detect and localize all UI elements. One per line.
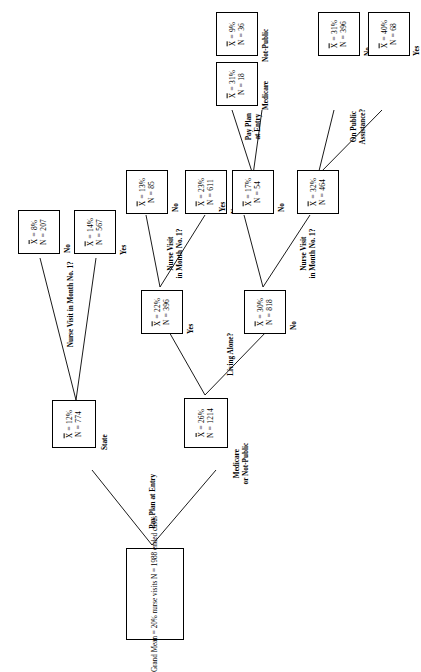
- mc-mean: = 31%: [228, 70, 237, 91]
- alone-yes-n: = 396: [162, 299, 171, 317]
- state-yes-mean: = 14%: [86, 218, 95, 239]
- node-label-state: State: [101, 434, 109, 450]
- split-label-pay-plan-entry-2: Pay Plan at Entry: [245, 101, 262, 153]
- ayy-mean: = 23%: [197, 178, 206, 199]
- np-n: = 36: [237, 23, 246, 37]
- ayn-n: = 85: [147, 181, 156, 195]
- ann-n: = 464: [318, 179, 327, 197]
- alone-no-mean: = 30%: [256, 298, 265, 319]
- ayn-mean: = 13%: [138, 178, 147, 199]
- alone-no-n: = 818: [265, 299, 274, 317]
- alone-yes-split-text: Nurse Visit in Month No. 1?: [167, 229, 184, 279]
- pay-plan-2-text: Pay Plan at Entry: [245, 113, 262, 140]
- node-state: X = 12% N = 774: [52, 400, 96, 448]
- state-yes-n: = 567: [95, 219, 104, 237]
- split-label-living-alone: Living Alone?: [227, 326, 236, 382]
- branch-label-not-public: Not-Public: [262, 29, 270, 62]
- split-label-alone-yes-nurse-visit: Nurse Visit in Month No. 1?: [167, 217, 184, 291]
- split-label-on-public-assistance: On Public Assistance?: [350, 98, 367, 156]
- node-not-public: X = 9% N = 36: [216, 12, 258, 56]
- node-label-medicare-or-not-public: Medicare or Not-Public: [233, 427, 250, 501]
- any-mean: = 17%: [244, 178, 253, 199]
- node-alone-no: X = 30% N = 818: [244, 290, 286, 334]
- branch-label-alone-no-yes: Yes: [219, 202, 227, 212]
- public-assistance-text: On Public Assistance?: [350, 109, 367, 145]
- pa-no-mean: = 31%: [330, 20, 339, 41]
- root-line3: N = 1988: [151, 552, 159, 579]
- pa-yes-mean: = 40%: [380, 20, 389, 41]
- pa-yes-n: = 68: [389, 23, 398, 37]
- any-n: = 54: [253, 181, 262, 195]
- state-no-n: = 207: [39, 219, 48, 237]
- node-medicare-or-not-public: X = 26% N = 1214: [184, 398, 228, 448]
- alone-yes-mean: = 22%: [153, 298, 162, 319]
- node-alone-yes-no: X = 13% N = 85: [126, 170, 168, 214]
- split-label-alone-no-nurse-visit: Nurse Visit in Month No. 1?: [300, 217, 317, 291]
- branch-label-alone-no-yes-alt: No: [278, 203, 286, 212]
- node-medicare: X = 31% N = 18: [216, 62, 258, 106]
- node-public-assistance-yes: X = 40% N = 68: [368, 12, 410, 56]
- alone-no-split-text: Nurse Visit in Month No. 1?: [300, 229, 317, 279]
- split-label-pay-plan-entry: Pay Plan at Entry: [149, 466, 158, 536]
- node-state-no: X = 8% N = 207: [18, 210, 60, 254]
- branch-label-medicare: Medicare: [262, 81, 270, 110]
- branch-label-public-assistance-yes: Yes: [413, 46, 421, 56]
- mc-n: = 18: [237, 73, 246, 87]
- mnp-label-line: Medicare or Not-Public: [233, 443, 250, 485]
- root-line1: Grand Mean = 20%: [151, 615, 159, 672]
- node-public-assistance-no: X = 31% N = 396: [318, 12, 360, 56]
- branch-label-alone-yes-no: No: [172, 203, 180, 212]
- node-alone-no-yes: X = 17% N = 54: [232, 170, 274, 214]
- state-n: = 774: [74, 411, 83, 429]
- ayy-n: = 611: [206, 179, 215, 197]
- root-node: Grand Mean = 20% nurse visits N = 1988 e…: [126, 548, 184, 640]
- branch-label-alone-no: No: [290, 321, 298, 330]
- node-alone-yes: X = 22% N = 396: [141, 290, 183, 334]
- np-mean: = 9%: [228, 22, 237, 39]
- pa-no-n: = 396: [339, 21, 348, 39]
- branch-label-state-yes: Yes: [120, 245, 128, 255]
- state-no-mean: = 8%: [30, 220, 39, 237]
- ann-mean: = 32%: [309, 178, 318, 199]
- branch-label-state-no: No: [64, 244, 72, 253]
- mnp-n: = 1214: [206, 408, 215, 430]
- root-line2: nurse visits: [151, 581, 159, 614]
- split-label-state-nurse-visit: Nurse Visit in Month No. 1?: [67, 255, 76, 353]
- branch-label-alone-yes: Yes: [187, 324, 195, 334]
- state-mean: = 12%: [65, 410, 74, 431]
- node-alone-no-no: X = 32% N = 464: [297, 170, 339, 214]
- mnp-mean: = 26%: [197, 409, 206, 430]
- node-state-yes: X = 14% N = 567: [74, 210, 116, 254]
